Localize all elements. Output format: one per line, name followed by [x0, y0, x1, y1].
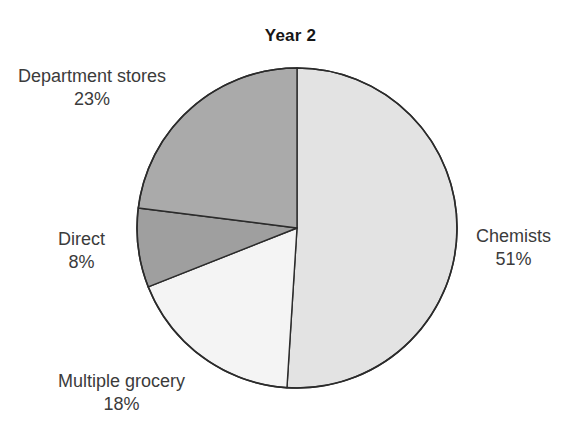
pie-slice-chemists [287, 68, 457, 388]
slice-label-chemists-value: 51% [476, 248, 551, 271]
pie-slices-group [137, 68, 457, 388]
slice-label-direct-value: 8% [58, 251, 105, 274]
slice-label-department-stores: Department stores 23% [18, 65, 166, 111]
slice-label-direct: Direct 8% [58, 228, 105, 274]
slice-label-department-stores-name: Department stores [18, 65, 166, 88]
slice-label-multiple-grocery-value: 18% [58, 393, 185, 416]
slice-label-chemists: Chemists 51% [476, 225, 551, 271]
pie-chart-figure: Year 2 Department stores 23% Direct 8% M… [0, 0, 581, 443]
slice-label-multiple-grocery-name: Multiple grocery [58, 370, 185, 393]
slice-label-department-stores-value: 23% [18, 88, 166, 111]
slice-label-direct-name: Direct [58, 228, 105, 251]
slice-label-chemists-name: Chemists [476, 225, 551, 248]
slice-label-multiple-grocery: Multiple grocery 18% [58, 370, 185, 416]
